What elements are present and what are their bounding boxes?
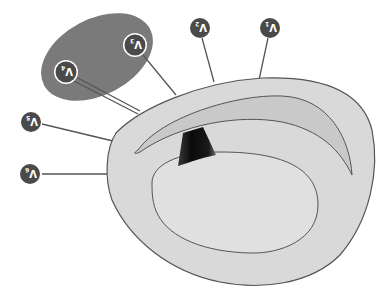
lead-v5-sub: 5 [26, 115, 30, 122]
leader-line-v2 [202, 38, 214, 82]
leader-line-v3 [143, 55, 176, 95]
lead-marker-v4: V4 [54, 60, 78, 84]
leader-line-v5 [42, 124, 113, 141]
lead-v2-sub: 2 [195, 21, 199, 28]
lead-v1-sub: 1 [265, 21, 269, 28]
lead-marker-v3: V3 [123, 33, 147, 57]
ecg-lead-heart-diagram: V1 V2 V3 V4 V5 V6 [0, 0, 388, 301]
lead-marker-v1: V1 [260, 18, 280, 38]
lead-marker-v5: V5 [21, 112, 41, 132]
lead-v3-sub: 3 [130, 38, 134, 45]
lead-marker-v2: V2 [190, 18, 210, 38]
lead-marker-v6: V6 [20, 164, 40, 184]
lead-v4-sub: 4 [61, 65, 65, 72]
lead-v6-sub: 6 [25, 167, 29, 174]
leader-line-v1 [259, 38, 268, 80]
